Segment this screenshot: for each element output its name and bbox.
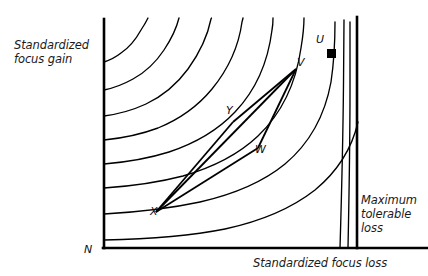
boundary-curve-tails xyxy=(340,20,350,248)
max-tolerable-loss-label: Maximum tolerable loss xyxy=(361,193,427,235)
boundary-tail-b xyxy=(340,20,344,248)
indifference-curve-8 xyxy=(104,18,148,62)
boundary-tail-a xyxy=(348,22,350,248)
y-axis-label: Standardized focus gain xyxy=(14,38,100,66)
opportunity-polygon xyxy=(156,69,296,212)
polygon-edge-x-y xyxy=(156,122,233,212)
point-label-v: V xyxy=(297,56,305,69)
point-u-marker xyxy=(327,49,336,58)
x-axis-label: Standardized focus loss xyxy=(253,256,428,270)
point-label-x: X xyxy=(150,205,158,218)
indifference-curve-family xyxy=(104,18,358,240)
indifference-curve-5 xyxy=(104,18,243,140)
point-label-u: U xyxy=(316,33,324,46)
polygon-edge-w-x xyxy=(156,148,258,212)
polygon-edge-v-w xyxy=(258,69,296,148)
indifference-curve-1 xyxy=(104,122,358,240)
origin-label-n: N xyxy=(84,243,92,256)
point-label-y: Y xyxy=(226,104,233,117)
indifference-curve-4 xyxy=(104,18,273,164)
diagram-canvas: Standardized focus gain Standardized foc… xyxy=(0,0,428,276)
polygon-edge-x-v-diagonal xyxy=(156,71,294,212)
indifference-curve-6 xyxy=(104,18,212,116)
point-label-w: W xyxy=(255,143,266,156)
